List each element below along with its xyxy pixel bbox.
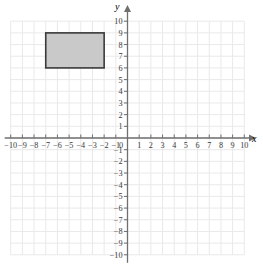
- y-axis-tick-label: 5: [118, 76, 122, 85]
- y-axis-tick-label: 7: [118, 52, 122, 61]
- y-axis-tick-label: 3: [118, 99, 122, 108]
- x-axis-tick-label: 10: [240, 141, 248, 150]
- y-axis-tick-label: −3: [114, 169, 123, 178]
- x-axis-tick-label: −10: [4, 141, 17, 150]
- x-axis-tick-label: −4: [76, 141, 85, 150]
- coordinate-plane-figure: −10−9−8−7−6−5−4−3−2−11234567891010987654…: [0, 0, 263, 270]
- x-axis-tick-label: −2: [100, 141, 109, 150]
- x-axis-tick-label: 7: [207, 141, 211, 150]
- y-axis-tick-label: −10: [110, 251, 123, 260]
- y-axis-tick-label: −5: [114, 192, 123, 201]
- x-axis-tick-label: −3: [88, 141, 97, 150]
- y-axis-tick-label: 10: [114, 17, 122, 26]
- x-axis-tick-label: 2: [149, 141, 153, 150]
- x-axis-tick-label: 1: [137, 141, 141, 150]
- y-axis-tick-label: 1: [118, 122, 122, 131]
- y-axis-tick-label: −7: [114, 216, 123, 225]
- y-axis-tick-label: 9: [118, 29, 122, 38]
- shaded-rectangle: [46, 33, 104, 68]
- x-axis-tick-label: −9: [18, 141, 27, 150]
- x-axis-tick-label: 8: [219, 141, 223, 150]
- y-axis-tick-label: −6: [114, 204, 123, 213]
- x-axis-tick-label: −6: [53, 141, 62, 150]
- y-axis-tick-label: −9: [114, 239, 123, 248]
- x-axis-tick-label: 6: [196, 141, 200, 150]
- x-axis-tick-label: 4: [172, 141, 176, 150]
- x-axis-tick-label: −5: [65, 141, 74, 150]
- y-axis-tick-label: 4: [118, 87, 122, 96]
- coordinate-plane-svg: −10−9−8−7−6−5−4−3−2−11234567891010987654…: [0, 0, 263, 270]
- y-axis-label: y: [115, 1, 119, 12]
- y-axis-tick-label: −8: [114, 227, 123, 236]
- x-axis-label: x: [252, 133, 256, 144]
- y-axis-tick-label: 8: [118, 41, 122, 50]
- y-axis-tick-label: 6: [118, 64, 122, 73]
- x-axis-tick-label: −7: [41, 141, 50, 150]
- y-axis-arrow-icon: [124, 5, 131, 12]
- origin-label: 0: [119, 141, 123, 150]
- x-axis-tick-label: 9: [231, 141, 235, 150]
- x-axis-tick-label: 5: [184, 141, 188, 150]
- y-axis-tick-label: −4: [114, 181, 123, 190]
- y-axis-tick-label: −2: [114, 157, 123, 166]
- x-axis-tick-label: 3: [160, 141, 164, 150]
- y-axis-tick-label: 2: [118, 111, 122, 120]
- x-axis-tick-label: −8: [30, 141, 39, 150]
